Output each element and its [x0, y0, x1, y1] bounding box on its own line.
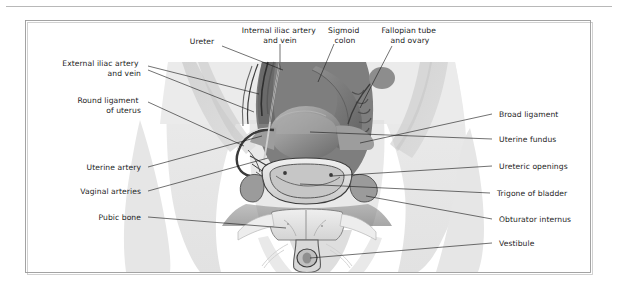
label-vestibule: Vestibule	[499, 239, 535, 248]
label-broad-ligament: Broad ligament	[499, 110, 558, 119]
label-round-ligament-of-uterus: Round ligament of uterus	[77, 96, 141, 115]
anatomy-figure: Ureter Internal iliac artery and vein Si…	[0, 0, 618, 290]
illustration-canvas	[124, 44, 492, 273]
label-ureteric-openings: Ureteric openings	[499, 162, 568, 171]
label-uterine-fundus: Uterine fundus	[499, 135, 556, 144]
ureteric-opening-right-shape	[329, 173, 333, 177]
label-uterine-artery: Uterine artery	[87, 163, 142, 172]
label-external-iliac-artery-and-vein: External iliac artery and vein	[62, 59, 141, 78]
label-pubic-bone: Pubic bone	[98, 213, 141, 222]
label-internal-iliac-artery-and-vein: Internal iliac artery and vein	[242, 26, 318, 45]
obturator-internus-left-shape	[240, 174, 264, 202]
pubic-bone-shape	[270, 209, 344, 240]
ovary-right-shape	[369, 67, 395, 89]
label-sigmoid-colon: Sigmoid colon	[328, 26, 362, 45]
label-obturator-internus: Obturator internus	[499, 215, 571, 224]
label-fallopian-tube-and-ovary: Fallopian tube and ovary	[382, 26, 439, 45]
ureteric-opening-left-shape	[283, 171, 287, 175]
label-ureter: Ureter	[190, 37, 215, 46]
label-trigone-of-bladder: Trigone of bladder	[496, 189, 568, 198]
label-vaginal-arteries: Vaginal arteries	[80, 187, 141, 196]
